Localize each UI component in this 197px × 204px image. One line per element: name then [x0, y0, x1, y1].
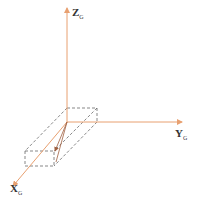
z-axis-label: ZG	[72, 6, 84, 20]
x-axis-label: XG	[10, 182, 22, 196]
x-axis	[13, 122, 67, 186]
axes	[13, 8, 182, 186]
coordinate-diagram: ZG YG XG	[0, 0, 197, 204]
axes-svg	[0, 0, 197, 204]
y-axis-label: YG	[175, 127, 187, 141]
vector	[55, 122, 67, 162]
